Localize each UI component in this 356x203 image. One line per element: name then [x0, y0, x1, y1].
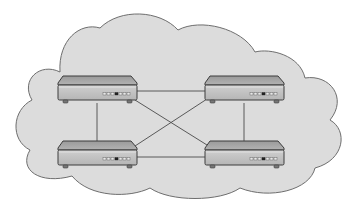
router-bottom-left[interactable]	[58, 141, 137, 168]
router-icon	[205, 141, 284, 168]
router-icon	[58, 76, 137, 103]
router-icon	[58, 141, 137, 168]
router-icon	[205, 76, 284, 103]
diagram-canvas	[0, 0, 356, 203]
router-top-right[interactable]	[205, 76, 284, 103]
network-diagram	[0, 0, 356, 203]
router-top-left[interactable]	[58, 76, 137, 103]
network-cloud	[16, 14, 341, 199]
router-bottom-right[interactable]	[205, 141, 284, 168]
